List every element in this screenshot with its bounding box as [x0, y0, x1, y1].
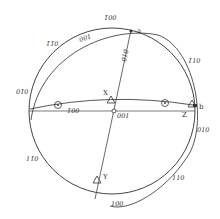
label-right: 010 — [197, 126, 209, 134]
label-bottom: 100 — [111, 200, 123, 208]
point-a-marker — [130, 30, 133, 33]
point-label-Y: Y — [102, 173, 108, 181]
pole-001-center — [112, 109, 116, 113]
point-label-b: b — [199, 103, 204, 111]
stereographic-projection-diagram: 1̄00 1̄1̄0 001 1̄10 01̄0 1̄00 010 001 01… — [0, 0, 220, 219]
point-label-X: X — [103, 89, 108, 97]
label-top-left-outer: 1̄1̄0 — [46, 40, 58, 48]
label-top-right-outer: 1̄10 — [188, 57, 200, 65]
label-vertical-zone: 010 — [120, 49, 130, 63]
label-top-outer: 1̄00 — [104, 14, 116, 22]
point-label-Z: Z — [182, 111, 187, 119]
inner-circle — [38, 35, 190, 195]
label-center: 001 — [117, 112, 129, 120]
point-label-a: a — [137, 27, 141, 35]
label-left: 01̄0 — [16, 88, 28, 96]
label-bottom-right: 110 — [172, 174, 184, 182]
label-bottom-left: 11̄0 — [26, 155, 38, 163]
label-equator: 1̄00 — [67, 107, 79, 115]
point-b-marker — [193, 104, 197, 107]
